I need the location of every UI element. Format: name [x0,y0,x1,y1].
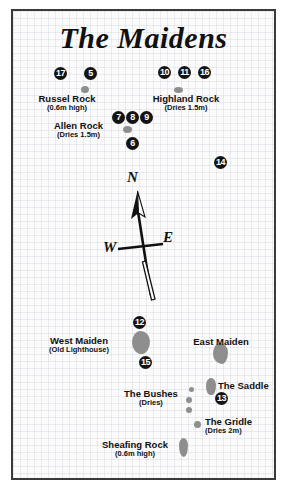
rock-shape-sheafing-rock [179,438,188,457]
feature-label-east-maiden: East Maiden [190,337,252,347]
waypoint-marker-10[interactable]: 10 [158,66,171,79]
feature-label-west-maiden: West Maiden (Old Lighthouse) [29,336,129,354]
compass-rose: N E W [101,173,197,309]
page-title: The Maidens [13,23,274,53]
feature-note-sheafing-rock: (0.6m high) [95,450,175,458]
waypoint-marker-5[interactable]: 5 [84,67,97,80]
feature-note-west-maiden: (Old Lighthouse) [29,346,129,354]
waypoint-marker-8[interactable]: 8 [126,111,139,124]
compass-north-arrow-outline [138,191,146,217]
feature-note-russel-rock: (0.6m high) [17,104,117,112]
rock-shape-west-maiden [132,331,150,354]
rock-shape-the-saddle [206,378,216,395]
waypoint-marker-15[interactable]: 15 [139,356,152,369]
compass-cross-bar [118,244,163,249]
waypoint-marker-13[interactable]: 13 [215,392,228,405]
waypoint-marker-9[interactable]: 9 [140,111,153,124]
feature-note-the-bushes: (Dries) [117,399,185,407]
chart-frame: The Maidens 17 5 10 11 16 7 8 9 6 14 12 … [11,9,276,480]
feature-label-highland-rock: Highland Rock (Dries 1.5m) [136,94,236,112]
feature-label-the-gridle: The Gridle (Dries 2m) [205,417,252,435]
compass-label-north: N [127,169,138,186]
rock-shape-the-bushes-3 [186,407,192,413]
feature-note-the-gridle: (Dries 2m) [205,427,252,435]
compass-label-east: E [163,229,173,246]
feature-label-sheafing-rock: Sheafing Rock (0.6m high) [95,440,175,458]
waypoint-marker-6[interactable]: 6 [126,137,139,150]
compass-south-tail [143,261,156,300]
feature-label-allen-rock: Allen Rock (Dries 1.5m) [36,121,121,139]
feature-note-allen-rock: (Dries 1.5m) [36,131,121,139]
waypoint-marker-14[interactable]: 14 [214,156,227,169]
waypoint-marker-12[interactable]: 12 [133,316,146,329]
waypoint-marker-16[interactable]: 16 [198,66,211,79]
waypoint-marker-17[interactable]: 17 [54,67,67,80]
rock-shape-the-bushes-1 [189,387,194,392]
rock-shape-the-gridle [194,421,201,428]
feature-note-highland-rock: (Dries 1.5m) [136,104,236,112]
waypoint-marker-11[interactable]: 11 [178,66,191,79]
nautical-chart-page: The Maidens 17 5 10 11 16 7 8 9 6 14 12 … [0,0,287,503]
rock-shape-the-bushes-2 [186,397,192,403]
feature-name-the-saddle: The Saddle [218,381,269,391]
feature-label-the-saddle: The Saddle [218,381,269,391]
feature-label-the-bushes: The Bushes (Dries) [117,389,185,407]
rock-shape-russel-rock [81,86,89,93]
rock-shape-allen-rock [123,126,132,133]
feature-label-russel-rock: Russel Rock (0.6m high) [17,94,117,112]
compass-label-west: W [103,239,116,256]
feature-name-east-maiden: East Maiden [190,337,252,347]
